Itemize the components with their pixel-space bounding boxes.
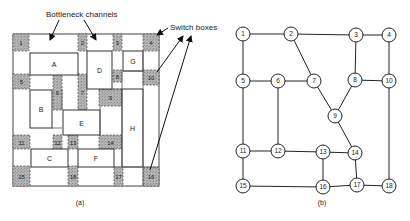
graph-node: 12	[271, 144, 285, 158]
node-label: 6	[276, 77, 280, 84]
caption-b: (b)	[318, 199, 327, 207]
graph-node: 16	[316, 180, 330, 194]
node-label: 9	[333, 112, 337, 119]
switch-box-label: 13	[70, 140, 77, 146]
switch-box: 18	[68, 166, 78, 186]
edge-group	[243, 34, 389, 187]
node-label: 7	[312, 77, 316, 84]
switch-box: 13	[68, 135, 78, 149]
node-label: 8	[353, 76, 357, 83]
switch-box: 12	[53, 135, 62, 149]
graph-node: 5	[236, 74, 250, 88]
switch-box: 4	[143, 34, 159, 51]
node-label: 17	[353, 181, 361, 188]
switch-box-label: 11	[18, 140, 25, 146]
node-label: 13	[319, 148, 327, 155]
block-b: B	[30, 90, 52, 128]
graph-node: 9	[328, 109, 342, 123]
switch-boxes-label: Switch boxes	[170, 23, 217, 32]
node-label: 4	[387, 31, 391, 38]
node-label: 5	[241, 77, 245, 84]
block-h: H	[122, 89, 143, 167]
placement-routing-figure: 123456789101112131415161718 ABCDEFGH Bot…	[0, 0, 410, 221]
node-label: 15	[239, 182, 247, 189]
block-label: C	[47, 155, 52, 162]
node-label: 11	[240, 147, 247, 154]
block-a: A	[30, 53, 78, 75]
node-label: 2	[289, 30, 293, 37]
block-label: D	[97, 67, 102, 74]
switch-box-label: 14	[107, 140, 114, 146]
block-group: ABCDEFGH	[30, 51, 159, 186]
edge-2-3	[291, 34, 356, 35]
block-label: A	[52, 61, 57, 68]
switch-box-label: 16	[148, 174, 155, 180]
block-g: G	[123, 51, 143, 71]
block-label: E	[79, 120, 84, 127]
switch-box: 11	[13, 135, 30, 149]
switch-arrow-2	[157, 36, 183, 72]
block-c: C	[31, 149, 68, 167]
block-label: B	[39, 106, 44, 113]
switch-box: 15	[13, 166, 30, 186]
bottleneck-channels-label: Bottleneck channels	[46, 10, 118, 19]
switch-box: 14	[99, 135, 122, 149]
graph-node: 17	[350, 178, 364, 192]
switch-box: 10	[143, 70, 159, 85]
block-d: D	[87, 51, 112, 89]
node-label: 12	[274, 147, 282, 154]
graph-node: 2	[284, 27, 298, 41]
graph-node: 15	[236, 179, 250, 193]
node-label: 18	[385, 182, 393, 189]
graph-node: 10	[382, 74, 396, 88]
graph-node: 11	[236, 144, 250, 158]
node-label: 14	[351, 149, 359, 156]
graph-node: 13	[316, 145, 330, 159]
graph-node: 6	[271, 74, 285, 88]
node-group: 123456789101112131415161718	[236, 27, 396, 194]
graph-node: 3	[349, 28, 363, 42]
switch-box: 5	[13, 74, 30, 89]
switch-box-label: 15	[18, 174, 25, 180]
node-label: 1	[241, 30, 245, 37]
block-f: F	[78, 149, 114, 167]
switch-box: 17	[114, 167, 123, 186]
floorplan-diagram: 123456789101112131415161718 ABCDEFGH Bot…	[13, 10, 217, 207]
graph-node: 1	[236, 27, 250, 41]
block-label: F	[94, 155, 98, 162]
block-e: E	[63, 110, 100, 135]
block-label: H	[130, 125, 135, 132]
switch-box: 8	[113, 70, 122, 82]
switch-box-label: 10	[148, 75, 155, 81]
switch-arrow-1	[157, 28, 168, 35]
graph-node: 14	[348, 146, 362, 160]
switch-box: 9	[99, 89, 122, 106]
switch-box-label: 17	[115, 174, 122, 180]
caption-a: (a)	[76, 199, 85, 207]
node-label: 3	[354, 31, 358, 38]
block-label: G	[130, 58, 135, 65]
switch-box-label: 12	[54, 140, 61, 146]
graph-node: 18	[382, 179, 396, 193]
switch-box: 7	[78, 74, 87, 110]
edge-2-7	[291, 34, 314, 81]
node-label: 10	[385, 77, 393, 84]
graph-node: 4	[382, 28, 396, 42]
node-label: 16	[319, 183, 327, 190]
switch-box-label: 18	[70, 174, 77, 180]
edge-15-16	[243, 186, 323, 187]
switch-box: 2	[78, 34, 87, 51]
channel-graph: 123456789101112131415161718 (b)	[236, 27, 396, 207]
switch-box: 1	[13, 34, 29, 51]
switch-box: 16	[143, 167, 159, 186]
graph-node: 7	[307, 74, 321, 88]
switch-box: 6	[53, 74, 62, 110]
switch-box: 3	[113, 34, 122, 51]
graph-node: 8	[348, 73, 362, 87]
